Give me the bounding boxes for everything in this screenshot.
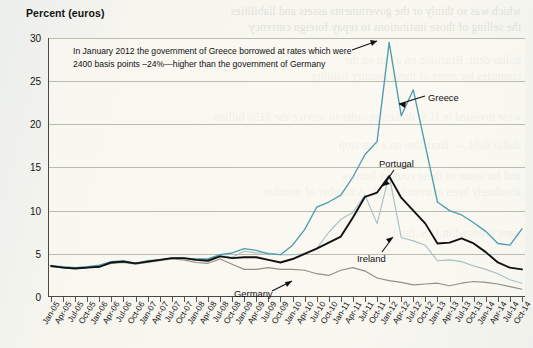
annotation-line-1: In January 2012 the government of Greece…	[73, 45, 352, 58]
series-lines	[48, 38, 525, 297]
y-tick-0: 0	[35, 292, 41, 303]
series-label-greece: Greece	[428, 92, 459, 103]
y-tick-5: 5	[35, 249, 41, 260]
chart-figure: Percent (euros) 30 25 20 15 10 5 0 Jan-0…	[0, 0, 533, 348]
series-label-ireland: Ireland	[357, 253, 386, 264]
line-germany	[51, 259, 522, 289]
x-axis-labels: Jan-05Apr-05Jul-05Oct-05Jan-06Apr-06Jul-…	[48, 300, 525, 348]
annotation-line-2: 2400 basis points –24%—higher than the g…	[73, 58, 352, 71]
series-label-germany: Germany	[234, 288, 273, 299]
annotation-greece-spread: In January 2012 the government of Greece…	[73, 45, 352, 70]
y-tick-20: 20	[30, 119, 41, 130]
y-tick-10: 10	[30, 206, 41, 217]
line-portugal	[51, 176, 522, 269]
y-axis: 30 25 20 15 10 5 0	[0, 0, 48, 348]
y-tick-30: 30	[30, 33, 41, 44]
line-ireland	[51, 175, 522, 283]
line-greece	[51, 42, 522, 267]
y-tick-25: 25	[30, 76, 41, 87]
series-label-portugal: Portugal	[379, 158, 414, 169]
y-tick-15: 15	[30, 162, 41, 173]
